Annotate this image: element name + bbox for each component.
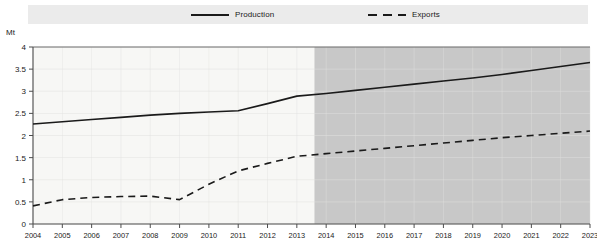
x-tick-label: 2007	[113, 231, 129, 240]
x-tick-label: 2018	[435, 231, 451, 240]
y-tick-label: 4	[22, 43, 27, 52]
y-tick-label: 2	[22, 132, 27, 141]
x-tick-label: 2013	[289, 231, 305, 240]
y-axis-tick-labels: 43.532.521.510.50	[15, 43, 27, 229]
x-tick-label: 2008	[142, 231, 158, 240]
y-tick-label: 3.5	[15, 65, 27, 74]
x-tick-label: 2021	[523, 231, 539, 240]
x-tick-label: 2017	[406, 231, 422, 240]
x-tick-label: 2006	[83, 231, 99, 240]
y-tick-label: 2.5	[15, 109, 27, 118]
x-tick-label: 2015	[347, 231, 363, 240]
chart-screenshot: Production Exports Mt 43.532.521.510.50 …	[0, 0, 597, 252]
y-tick-label: 1	[22, 176, 27, 185]
x-tick-label: 2009	[171, 231, 187, 240]
x-tick-label: 2022	[552, 231, 568, 240]
x-tick-label: 2012	[259, 231, 275, 240]
x-tick-label: 2014	[318, 231, 334, 240]
x-tick-label: 2011	[230, 231, 246, 240]
y-tick-label: 0	[22, 220, 27, 229]
x-tick-label: 2016	[377, 231, 393, 240]
y-axis-ticks	[29, 47, 33, 224]
x-tick-label: 2019	[465, 231, 481, 240]
x-tick-label: 2005	[54, 231, 70, 240]
y-tick-label: 3	[22, 87, 27, 96]
x-tick-label: 2004	[25, 231, 41, 240]
y-tick-label: 1.5	[15, 154, 27, 163]
y-tick-label: 0.5	[15, 198, 27, 207]
x-axis-ticks	[33, 224, 590, 228]
x-tick-label: 2010	[201, 231, 217, 240]
x-axis-tick-labels: 2004200520062007200820092010201120122013…	[25, 231, 597, 240]
x-tick-label: 2020	[494, 231, 510, 240]
line-chart-svg: 43.532.521.510.50 2004200520062007200820…	[0, 0, 597, 252]
plot-area: 43.532.521.510.50 2004200520062007200820…	[0, 0, 597, 252]
x-tick-label: 2023	[582, 231, 597, 240]
